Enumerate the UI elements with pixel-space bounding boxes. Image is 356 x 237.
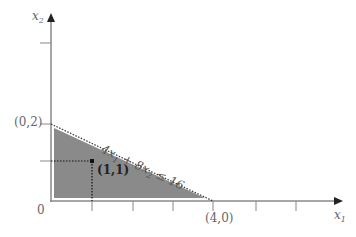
lp-feasible-region-diagram xyxy=(0,0,356,237)
point-label-0-2: (0,2) xyxy=(14,115,42,129)
y-axis-arrow-icon xyxy=(47,13,55,22)
x-axis-label: x1 xyxy=(334,208,346,224)
y-axis-label: x2 xyxy=(32,9,44,25)
point-marker xyxy=(90,159,94,163)
origin-label: 0 xyxy=(37,203,45,217)
point-label-4-0: (4,0) xyxy=(205,211,233,225)
x-axis-arrow-icon xyxy=(334,197,343,205)
